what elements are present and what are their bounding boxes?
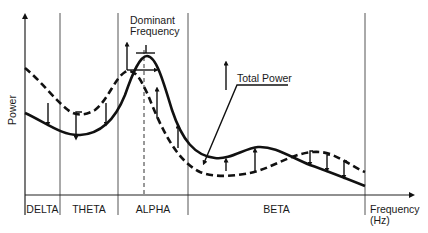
- x-axis-label-2: (Hz): [370, 214, 390, 226]
- band-label-theta: THETA: [60, 203, 118, 215]
- eeg-spectrum-diagram: Power Dominant Frequency Total Power DEL…: [0, 0, 428, 233]
- band-label-alpha: ALPHA: [118, 203, 188, 215]
- dominant-frequency-label-2: Frequency: [130, 25, 180, 37]
- total-power-label: Total Power: [237, 72, 292, 84]
- y-axis-label: Power: [6, 95, 18, 125]
- axes: [25, 16, 412, 215]
- arrow-down-beta-2: [327, 155, 330, 170]
- diagram-canvas: [0, 0, 428, 233]
- change-arrows: [48, 44, 347, 177]
- band-label-beta: BETA: [188, 203, 365, 215]
- band-label-delta: DELTA: [25, 203, 60, 215]
